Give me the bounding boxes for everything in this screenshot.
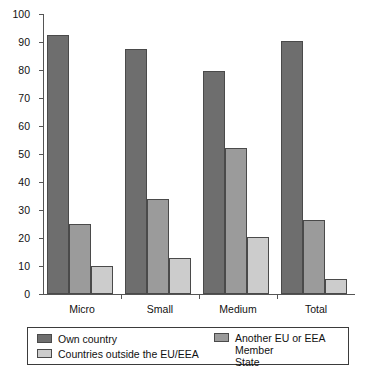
legend-item: Own country bbox=[37, 333, 117, 345]
y-tick-mark bbox=[39, 154, 43, 155]
bar-group bbox=[281, 14, 347, 294]
y-tick-label: 40 bbox=[18, 177, 30, 187]
y-tick-label: 100 bbox=[12, 9, 30, 19]
bars-container bbox=[43, 14, 355, 294]
y-tick-label: 90 bbox=[18, 37, 30, 47]
y-tick-mark bbox=[39, 182, 43, 183]
x-category-label: Micro bbox=[43, 304, 121, 315]
y-tick-label: 20 bbox=[18, 233, 30, 243]
x-tick-mark bbox=[121, 295, 122, 299]
legend-label: Countries outside the EU/EEA bbox=[58, 348, 199, 360]
bar bbox=[225, 148, 247, 294]
y-tick-mark bbox=[39, 14, 43, 15]
y-tick-mark bbox=[39, 70, 43, 71]
legend-swatch bbox=[37, 334, 52, 343]
bar-chart: 0102030405060708090100 MicroSmallMediumT… bbox=[0, 0, 377, 372]
y-tick-label: 80 bbox=[18, 65, 30, 75]
x-category-label: Medium bbox=[199, 304, 277, 315]
bar bbox=[303, 220, 325, 294]
y-tick-label: 10 bbox=[18, 261, 30, 271]
legend-item: Another EU or EEA Member State bbox=[214, 332, 344, 368]
legend-item: Countries outside the EU/EEA bbox=[37, 348, 199, 360]
legend-label: Own country bbox=[58, 333, 117, 345]
bar bbox=[325, 279, 347, 294]
bar-group bbox=[203, 14, 269, 294]
chart-legend: Own countryAnother EU or EEA Member Stat… bbox=[27, 327, 349, 365]
x-tick-mark bbox=[199, 295, 200, 299]
bar-group bbox=[47, 14, 113, 294]
y-tick-mark bbox=[39, 210, 43, 211]
bar bbox=[203, 71, 225, 294]
y-tick-mark bbox=[39, 266, 43, 267]
legend-swatch bbox=[37, 349, 52, 358]
legend-swatch bbox=[214, 333, 229, 342]
x-category-label: Small bbox=[121, 304, 199, 315]
y-tick-label: 60 bbox=[18, 121, 30, 131]
bar bbox=[125, 49, 147, 294]
y-tick-label: 0 bbox=[24, 289, 30, 299]
bar bbox=[69, 224, 91, 294]
y-tick-mark bbox=[39, 42, 43, 43]
y-tick-label: 70 bbox=[18, 93, 30, 103]
y-tick-mark bbox=[39, 98, 43, 99]
y-tick-mark bbox=[39, 294, 43, 295]
y-tick-mark bbox=[39, 126, 43, 127]
x-tick-mark bbox=[277, 295, 278, 299]
y-tick-label: 50 bbox=[18, 149, 30, 159]
plot-area: 0102030405060708090100 MicroSmallMediumT… bbox=[0, 0, 377, 320]
y-tick-mark bbox=[39, 238, 43, 239]
bar bbox=[147, 199, 169, 294]
legend-label: Another EU or EEA Member State bbox=[235, 332, 344, 368]
bar bbox=[247, 237, 269, 294]
y-axis: 0102030405060708090100 bbox=[0, 0, 40, 320]
bar bbox=[169, 258, 191, 294]
bar bbox=[91, 266, 113, 294]
y-tick-label: 30 bbox=[18, 205, 30, 215]
bar bbox=[47, 35, 69, 294]
bar-group bbox=[125, 14, 191, 294]
x-category-label: Total bbox=[277, 304, 355, 315]
bar bbox=[281, 41, 303, 294]
